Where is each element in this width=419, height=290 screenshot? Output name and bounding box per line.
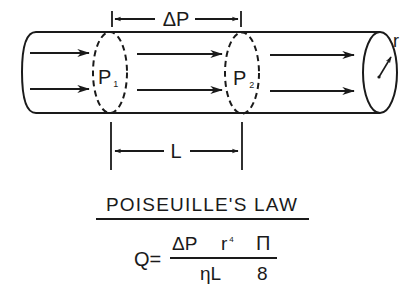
p1-label: P1 (98, 66, 118, 89)
equation-numerator-dp: ΔP (172, 233, 197, 254)
equation-numerator-r: r4 (221, 233, 234, 254)
equation-numerator-pi: Π (256, 232, 270, 254)
flow-arrows (30, 53, 354, 91)
equation-lhs: Q= (134, 248, 161, 270)
length-label: L (170, 140, 181, 162)
equation-denominator-8: 8 (257, 263, 268, 284)
tube-outline (22, 32, 380, 113)
pressure-difference-label: ΔP (163, 8, 190, 30)
radius-indicator (377, 57, 391, 79)
poiseuille-diagram: r P1 P2 ΔP L POISEUILLE'S LAW Q= ΔP r4 Π (0, 0, 419, 290)
tube-end-ellipse (363, 32, 397, 113)
equation: Q= ΔP r4 Π ηL 8 (134, 232, 277, 284)
p2-label: P2 (233, 67, 254, 90)
radius-label: r (393, 31, 399, 51)
equation-denominator-eta-l: ηL (200, 263, 221, 284)
tube (22, 32, 397, 113)
law-title: POISEUILLE'S LAW (106, 194, 298, 215)
